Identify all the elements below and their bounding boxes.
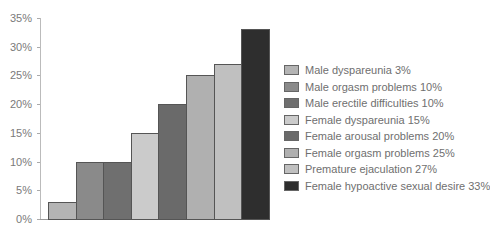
y-tick-label: 35% (0, 12, 32, 24)
y-axis (40, 18, 41, 220)
legend-label: Female dyspareunia 15% (305, 114, 430, 126)
bar (76, 162, 105, 220)
legend-item: Female orgasm problems 25% (284, 145, 490, 162)
bar (214, 64, 243, 220)
legend-label: Female arousal problems 20% (305, 130, 454, 142)
y-tick-label: 20% (0, 98, 32, 110)
y-tick-label: 5% (0, 184, 32, 196)
legend-label: Premature ejaculation 27% (305, 163, 437, 175)
y-tick-label: 10% (0, 156, 32, 168)
y-tick-label: 25% (0, 69, 32, 81)
legend-item: Male dyspareunia 3% (284, 62, 490, 79)
bar (131, 133, 160, 220)
legend: Male dyspareunia 3%Male orgasm problems … (284, 62, 490, 194)
legend-item: Premature ejaculation 27% (284, 161, 490, 178)
y-tick-label: 15% (0, 127, 32, 139)
bar (186, 75, 215, 220)
legend-item: Female arousal problems 20% (284, 128, 490, 145)
legend-swatch (284, 98, 299, 108)
legend-item: Female dyspareunia 15% (284, 112, 490, 129)
legend-swatch (284, 131, 299, 141)
bar (103, 162, 132, 220)
legend-swatch (284, 65, 299, 75)
legend-swatch (284, 181, 299, 191)
y-tick-label: 0% (0, 213, 32, 225)
legend-label: Male dyspareunia 3% (305, 64, 411, 76)
y-tick-label: 30% (0, 41, 32, 53)
legend-label: Male erectile difficulties 10% (305, 97, 444, 109)
legend-swatch (284, 82, 299, 92)
legend-item: Female hypoactive sexual desire 33% (284, 178, 490, 195)
legend-swatch (284, 148, 299, 158)
bar (158, 104, 187, 220)
legend-swatch (284, 164, 299, 174)
legend-label: Female hypoactive sexual desire 33% (305, 180, 490, 192)
legend-label: Male orgasm problems 10% (305, 81, 442, 93)
legend-swatch (284, 115, 299, 125)
legend-label: Female orgasm problems 25% (305, 147, 455, 159)
legend-item: Male orgasm problems 10% (284, 79, 490, 96)
bar (48, 202, 77, 220)
bar (241, 29, 270, 220)
legend-item: Male erectile difficulties 10% (284, 95, 490, 112)
